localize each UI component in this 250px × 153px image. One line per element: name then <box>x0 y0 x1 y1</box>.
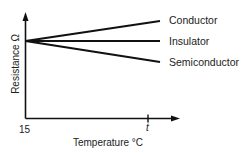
resistance-temperature-diagram: Conductor Insulator Semiconductor 15 t T… <box>0 0 250 153</box>
x-axis-title: Temperature °C <box>73 137 143 148</box>
x-tick-label-t: t <box>146 122 150 133</box>
semiconductor-label: Semiconductor <box>169 56 240 68</box>
y-axis-title: Resistance Ω <box>10 34 21 94</box>
semiconductor-line <box>26 41 161 62</box>
conductor-label: Conductor <box>169 14 218 26</box>
x-axis-arrow-icon <box>171 116 180 122</box>
insulator-label: Insulator <box>169 35 210 47</box>
conductor-line <box>26 21 161 41</box>
x-tick-label-15: 15 <box>19 124 31 135</box>
y-axis-arrow-icon <box>23 12 29 21</box>
